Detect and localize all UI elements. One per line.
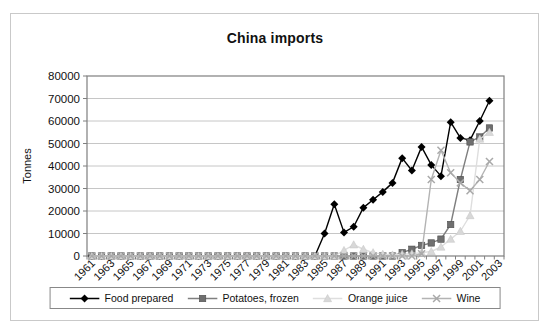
y-tick-label: 40000: [48, 160, 80, 172]
plot-svg: 0100002000030000400005000060000700008000…: [0, 0, 550, 334]
legend-item-orange-juice: Orange juice: [313, 292, 408, 304]
legend: Food preparedPotatoes, frozenOrange juic…: [50, 287, 501, 309]
x-tick-label: 2001: [459, 257, 485, 283]
legend-label: Food prepared: [105, 292, 174, 304]
y-tick-label: 80000: [48, 70, 80, 82]
x-tick-label: 1963: [91, 257, 117, 283]
x-axis-labels-group: 1961196319651967196919711973197519771979…: [71, 257, 504, 283]
y-tick-label: 30000: [48, 183, 80, 195]
x-tick-label: 1967: [130, 257, 156, 283]
x-tick-label: 1983: [285, 257, 311, 283]
triangle-icon: [313, 293, 343, 304]
x-tick-label: 1997: [421, 257, 447, 283]
x-tick-label: 1977: [227, 257, 253, 283]
x-tick-label: 1991: [362, 257, 388, 283]
x-tick-label: 1985: [304, 257, 330, 283]
x-tick-label: 2003: [479, 257, 505, 283]
y-tick-label: 20000: [48, 205, 80, 217]
y-tick-label: 10000: [48, 228, 80, 240]
x-tick-label: 1975: [207, 257, 233, 283]
x-tick-label: 1987: [324, 257, 350, 283]
y-tick-label: 60000: [48, 115, 80, 127]
x-tick-label: 1999: [440, 257, 466, 283]
diamond-icon: [70, 293, 100, 304]
legend-label: Orange juice: [348, 292, 408, 304]
y-axis-labels-group: 0100002000030000400005000060000700008000…: [48, 70, 80, 262]
y-tick-label: 70000: [48, 93, 80, 105]
legend-item-wine: Wine: [421, 292, 480, 304]
legend-label: Wine: [456, 292, 480, 304]
chart-container: China imports Tonnes 0100002000030000400…: [0, 0, 550, 334]
y-tick-label: 0: [74, 250, 80, 262]
legend-item-food-prepared: Food prepared: [70, 292, 174, 304]
legend-item-potatoes-frozen: Potatoes, frozen: [187, 292, 298, 304]
x-tick-label: 1979: [246, 257, 272, 283]
x-icon: [421, 293, 451, 304]
y-tick-label: 50000: [48, 138, 80, 150]
x-tick-label: 1993: [382, 257, 408, 283]
x-tick-label: 1973: [188, 257, 214, 283]
legend-label: Potatoes, frozen: [222, 292, 298, 304]
x-tick-label: 1995: [401, 257, 427, 283]
x-tick-label: 1965: [110, 257, 136, 283]
x-tick-label: 1971: [168, 257, 194, 283]
square-icon: [187, 293, 217, 304]
gridlines-group: [87, 76, 504, 256]
x-tick-label: 1989: [343, 257, 369, 283]
x-tick-label: 1969: [149, 257, 175, 283]
x-tick-label: 1981: [265, 257, 291, 283]
